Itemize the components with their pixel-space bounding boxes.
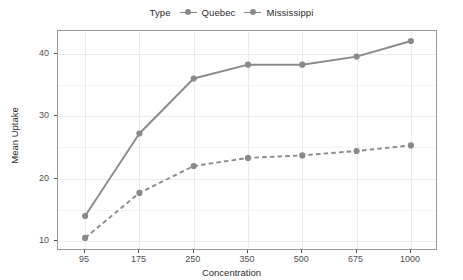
x-tick-mark-250: [193, 250, 194, 253]
y-tick-label-10: 10: [39, 235, 49, 245]
data-point-quebec-95: [82, 213, 88, 219]
legend-label-mississippi: Mississippi: [266, 7, 313, 18]
chart-legend: Type Quebec Mississippi: [0, 3, 463, 21]
data-point-quebec-250: [191, 75, 197, 81]
x-tick-label-250: 250: [185, 254, 200, 264]
x-tick-mark-675: [356, 250, 357, 253]
legend-item-mississippi[interactable]: Mississippi: [244, 7, 313, 18]
x-tick-label-95: 95: [79, 254, 89, 264]
legend-item-quebec[interactable]: Quebec: [180, 7, 236, 18]
x-tick-mark-350: [247, 250, 248, 253]
y-tick-mark-20: [54, 178, 57, 179]
legend-label-quebec: Quebec: [202, 7, 236, 18]
legend-key-point-line-icon: [244, 7, 261, 18]
data-point-mississippi-675: [354, 148, 360, 154]
y-tick-mark-10: [54, 240, 57, 241]
x-tick-mark-175: [138, 250, 139, 253]
x-tick-mark-1000: [410, 250, 411, 253]
data-point-quebec-675: [354, 54, 360, 60]
y-axis-title: Mean Uptake: [9, 76, 20, 196]
plot-area: [58, 31, 438, 251]
legend-title: Type: [150, 7, 171, 18]
y-tick-label-40: 40: [39, 48, 49, 58]
x-tick-mark-500: [301, 250, 302, 253]
data-point-quebec-350: [245, 62, 251, 68]
chart-container: Type Quebec Mississippi 10203040 Mean Up…: [0, 0, 463, 280]
y-tick-mark-40: [54, 53, 57, 54]
x-tick-label-500: 500: [294, 254, 309, 264]
plot-panel: [57, 30, 437, 250]
y-tick-label-20: 20: [39, 173, 49, 183]
x-tick-mark-95: [84, 250, 85, 253]
data-point-mississippi-350: [245, 155, 251, 161]
y-tick-label-30: 30: [39, 110, 49, 120]
x-tick-label-175: 175: [131, 254, 146, 264]
x-axis-title: Concentration: [0, 267, 463, 278]
data-point-quebec-500: [299, 62, 305, 68]
legend-key-point-line-icon: [180, 7, 197, 18]
x-tick-label-350: 350: [239, 254, 254, 264]
data-point-mississippi-1000: [408, 142, 414, 148]
data-point-quebec-175: [136, 130, 142, 136]
y-tick-mark-30: [54, 115, 57, 116]
y-axis: 10203040: [13, 30, 57, 250]
x-tick-label-675: 675: [348, 254, 363, 264]
data-point-mississippi-95: [82, 235, 88, 241]
x-tick-label-1000: 1000: [400, 254, 420, 264]
data-point-mississippi-250: [191, 163, 197, 169]
data-point-quebec-1000: [408, 38, 414, 44]
data-point-mississippi-175: [136, 190, 142, 196]
x-axis: 951752503505006751000: [57, 254, 437, 268]
data-point-mississippi-500: [299, 152, 305, 158]
